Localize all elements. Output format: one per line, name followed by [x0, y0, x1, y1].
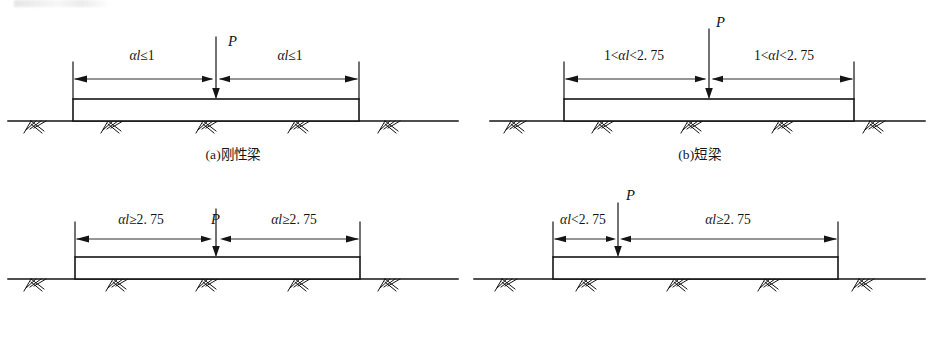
arrowhead-left-inner: [201, 236, 212, 242]
hatch-mark: [667, 279, 689, 291]
load-label: P: [715, 14, 725, 30]
hatch-mark: [288, 121, 310, 133]
dimension-label-right: 1<αl<2. 75: [754, 48, 814, 63]
arrowhead-right-inner: [219, 76, 230, 82]
load-arrowhead: [705, 88, 713, 99]
ground-hatching: [504, 121, 885, 133]
load-label: P: [227, 33, 237, 49]
beam-body: [553, 257, 838, 279]
beam-body: [73, 99, 359, 121]
hatch-mark: [592, 121, 614, 133]
arrowhead-right-inner: [620, 236, 631, 242]
ground-hatching: [24, 279, 400, 291]
dimension-label-left: αl≥2. 75: [118, 212, 164, 227]
hatch-mark: [288, 279, 310, 291]
load-arrowhead: [212, 88, 220, 99]
arrowhead-right-outer: [824, 236, 837, 243]
hatch-mark: [772, 121, 794, 133]
hatch-mark: [852, 279, 874, 291]
hatch-mark: [681, 121, 703, 133]
beam-body: [564, 99, 854, 121]
arrowhead-left-outer: [565, 76, 578, 83]
panel-a-rigid-beam: αl≤1 αl≤1 P (a)刚性梁: [0, 0, 466, 175]
dimension-label-left: 1<αl<2. 75: [604, 48, 664, 63]
beam-classification-figure: αl≤1 αl≤1 P (a)刚性梁: [0, 0, 933, 349]
hatch-mark: [863, 121, 885, 133]
arrowhead-left-outer: [76, 236, 89, 243]
dimension-label-right: αl≤1: [277, 48, 302, 63]
dimension-label-right: αl≥2. 75: [705, 212, 751, 227]
load-label: P: [210, 211, 220, 227]
panel-c-infinite-beam: αl≥2. 75 αl≥2. 75 P (c)无限长梁: [0, 175, 466, 349]
hatch-mark: [576, 279, 598, 291]
hatch-mark: [378, 121, 400, 133]
hatch-mark: [504, 121, 526, 133]
panel-d-semi-infinite-beam: αl<2. 75 αl≥2. 75 P (d)半无限长梁: [466, 175, 933, 349]
hatch-mark: [24, 121, 46, 133]
arrowhead-right-inner: [220, 236, 231, 242]
hatch-mark: [758, 279, 780, 291]
arrowhead-right-outer: [346, 236, 359, 243]
beam-body: [75, 257, 360, 279]
arrowhead-right-outer: [840, 76, 853, 83]
hatch-mark: [495, 279, 517, 291]
hatch-mark: [196, 121, 218, 133]
panel-b-caption: (b)短梁: [466, 143, 933, 163]
ground-hatching: [495, 279, 874, 291]
dimension-label-left: αl<2. 75: [560, 212, 606, 227]
hatch-mark: [106, 279, 128, 291]
panel-c-drawing: αl≥2. 75 αl≥2. 75 P: [0, 175, 466, 349]
load-label: P: [625, 187, 635, 203]
load-arrowhead: [212, 246, 220, 257]
arrowhead-right-outer: [345, 76, 358, 83]
panel-d-drawing: αl<2. 75 αl≥2. 75 P: [466, 175, 933, 349]
arrowhead-right-inner: [712, 76, 723, 82]
panel-b-short-beam: 1<αl<2. 75 1<αl<2. 75 P (b)短梁: [466, 0, 933, 175]
arrowhead-left-inner: [202, 76, 213, 82]
arrowhead-left-outer: [74, 76, 87, 83]
ground-hatching: [24, 121, 400, 133]
dimension-label-right: αl≥2. 75: [271, 212, 317, 227]
dimension-label-left: αl≤1: [129, 48, 154, 63]
load-arrowhead: [614, 246, 622, 257]
hatch-mark: [101, 121, 123, 133]
arrowhead-left-inner: [606, 236, 616, 242]
hatch-mark: [24, 279, 46, 291]
hatch-mark: [196, 279, 218, 291]
arrowhead-left-outer: [554, 236, 566, 242]
panel-a-caption: (a)刚性梁: [0, 143, 466, 163]
arrowhead-left-inner: [695, 76, 706, 82]
hatch-mark: [378, 279, 400, 291]
